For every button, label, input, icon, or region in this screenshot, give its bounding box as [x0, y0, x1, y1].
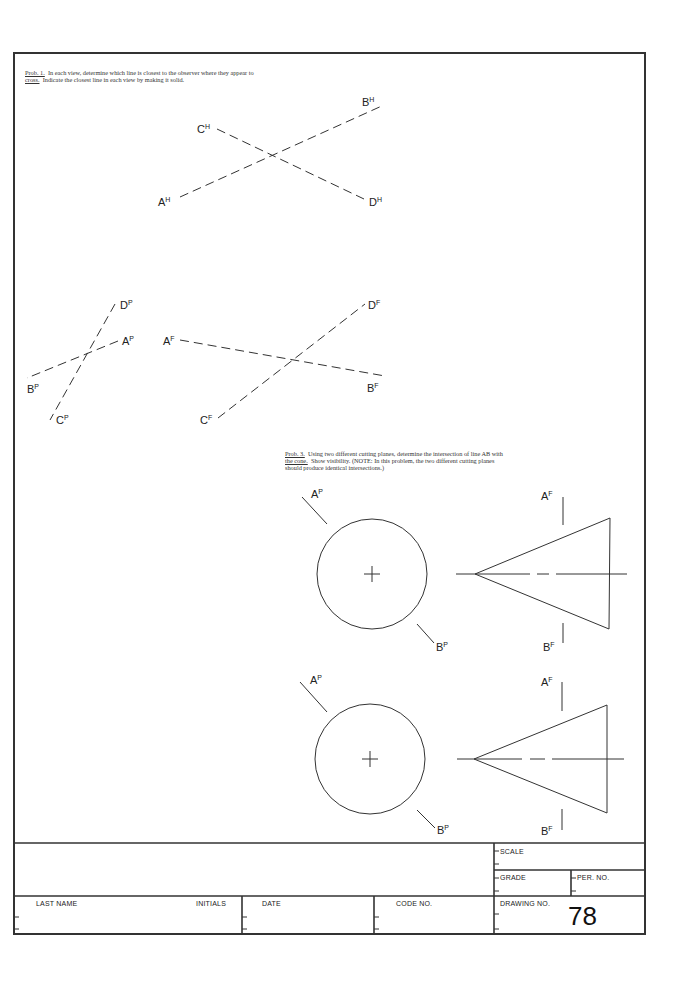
label-a-top-2: AP	[310, 674, 322, 686]
last-name-field-label: LAST NAME	[36, 900, 77, 907]
title-block-ticks	[14, 851, 576, 929]
label-a-front-1: AF	[541, 490, 553, 502]
label-a-frontal: AF	[163, 335, 175, 347]
label-b-frontal: BF	[367, 382, 379, 394]
label-a-horizontal: AH	[158, 196, 170, 208]
label-c-frontal: CF	[200, 414, 212, 426]
line-ab-top-a-2	[300, 682, 327, 712]
line-ab-profile	[27, 341, 118, 378]
initials-field-label: INITIALS	[196, 900, 226, 907]
date-field-label: DATE	[262, 900, 281, 907]
line-ab-horizontal	[180, 105, 384, 197]
line-ab-top-b-2	[417, 810, 435, 828]
drawing-canvas: BH CH AH DH DP AP BP CP DF AF BF CF AP B…	[0, 0, 684, 986]
line-ab-frontal	[180, 340, 385, 376]
scale-field-label: SCALE	[500, 848, 524, 855]
code-no-field-label: CODE NO.	[396, 900, 432, 907]
label-d-frontal: DF	[368, 299, 380, 311]
label-b-top-1: BP	[436, 641, 448, 653]
drawing-no-field-label: DRAWING NO.	[500, 900, 550, 907]
line-ab-top-b-1	[417, 624, 434, 643]
line-cd-profile	[50, 304, 115, 420]
label-b-top-2: BP	[437, 824, 449, 836]
label-b-horizontal: BH	[362, 96, 374, 108]
line-cd-horizontal	[217, 129, 364, 199]
title-block-lines	[14, 843, 646, 935]
label-c-profile: CP	[56, 414, 69, 426]
line-ab-top-a-1	[302, 497, 327, 524]
label-b-front-1: BF	[543, 641, 555, 653]
label-d-horizontal: DH	[369, 196, 382, 208]
drawing-number: 78	[568, 901, 597, 932]
label-c-horizontal: CH	[197, 123, 210, 135]
label-d-profile: DP	[120, 299, 133, 311]
label-b-profile: BP	[27, 383, 39, 395]
grade-field-label: GRADE	[500, 874, 526, 881]
label-a-profile: AP	[122, 335, 134, 347]
line-cd-frontal	[218, 304, 365, 418]
per-no-field-label: PER. NO.	[577, 874, 609, 881]
label-a-front-2: AF	[541, 676, 553, 688]
label-a-top-1: AP	[311, 488, 323, 500]
label-b-front-2: BF	[541, 825, 553, 837]
